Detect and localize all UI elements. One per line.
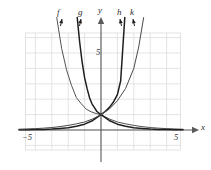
x-tick-5: 5 (174, 133, 178, 142)
exponential-functions-figure: f g y h k 5 −5 5 x (0, 0, 211, 170)
grid-lines (26, 33, 181, 150)
curve-label-h: h (117, 8, 122, 17)
x-tick-minus-5: −5 (22, 133, 32, 142)
axes (19, 17, 199, 162)
y-axis-label: y (98, 6, 102, 15)
curve-label-k: k (130, 8, 134, 17)
curve-label-g: g (78, 8, 83, 17)
y-tick-5: 5 (96, 48, 100, 57)
curve-label-f: f (57, 8, 60, 17)
coordinate-plot (0, 0, 211, 170)
x-axis-label: x (201, 123, 205, 132)
